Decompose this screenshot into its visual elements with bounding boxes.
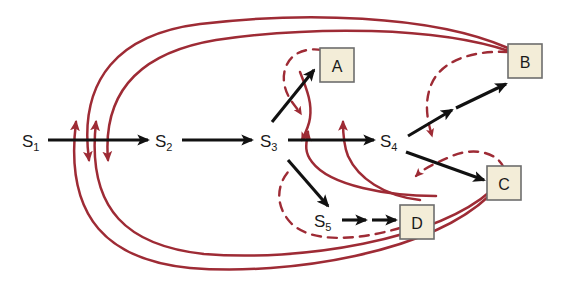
output-box-b-label: B [520, 54, 531, 71]
output-box-c: C [487, 166, 521, 200]
output-box-d: D [400, 205, 434, 239]
state-label-s1: S1 [22, 132, 39, 153]
output-box-d-label: D [411, 215, 423, 232]
edge-s4-to-b [456, 84, 506, 108]
state-label-s4: S4 [380, 132, 397, 153]
output-box-a-label: A [332, 58, 343, 75]
state-label-s3: S3 [260, 132, 277, 153]
output-box-b: B [508, 44, 542, 78]
dashed-loop-b [427, 52, 508, 136]
output-box-a: A [320, 48, 354, 82]
output-box-c-label: C [498, 176, 510, 193]
edge-s3-to-s5 [288, 160, 328, 206]
feedback-curve-s4-to-s3 [306, 132, 436, 196]
diagram-canvas: S1 S2 S3 S4 S5 A B C D [0, 0, 566, 286]
state-label-s2: S2 [155, 132, 172, 153]
state-label-s5: S5 [314, 212, 331, 233]
diagram-svg: S1 S2 S3 S4 S5 A B C D [0, 0, 566, 286]
